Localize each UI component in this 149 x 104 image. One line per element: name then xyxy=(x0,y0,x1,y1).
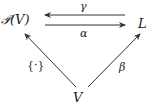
node-lattice: L xyxy=(138,17,147,30)
node-powerset: 𝒫(V) xyxy=(1,13,30,26)
beta-arrow xyxy=(88,34,140,87)
singleton-label: {·} xyxy=(27,60,45,71)
node-vertex: V xyxy=(73,91,82,104)
beta-label: β xyxy=(119,62,125,73)
alpha-label: α xyxy=(80,28,87,39)
gamma-label: γ xyxy=(80,1,87,12)
